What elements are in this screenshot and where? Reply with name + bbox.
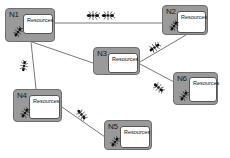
node-n3[interactable]: N3 Resources [93, 47, 140, 75]
ant-icon [86, 10, 100, 21]
node-label: N4 [17, 91, 27, 100]
node-label: N2 [166, 7, 176, 16]
resources-box: Resources [108, 53, 138, 73]
node-n4[interactable]: N4 Resources [13, 89, 62, 122]
node-label: N3 [97, 49, 107, 58]
node-label: N1 [9, 10, 19, 19]
node-label: N5 [108, 122, 118, 131]
resources-box: Resources [23, 14, 53, 34]
resources-box: Resources [189, 77, 217, 102]
node-n5[interactable]: N5 Resources [104, 120, 152, 150]
node-label: N6 [177, 74, 187, 83]
resources-box: Resources [177, 11, 206, 33]
node-n6[interactable]: N6 Resources [173, 72, 218, 105]
node-n1[interactable]: N1 Resources [5, 8, 55, 42]
node-n2[interactable]: N2 Resources [162, 5, 208, 35]
edge-n1-n4 [31, 42, 36, 89]
ant-icon [17, 59, 31, 73]
ant-icon [101, 10, 115, 21]
resources-box: Resources [120, 126, 150, 148]
edge-n1-n3 [32, 42, 93, 63]
resources-box: Resources [29, 95, 60, 119]
